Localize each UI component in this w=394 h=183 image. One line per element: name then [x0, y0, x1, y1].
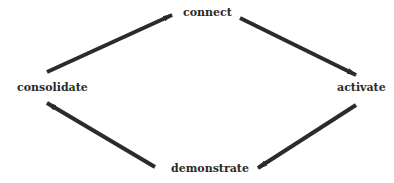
- node-activate: activate: [337, 82, 386, 94]
- arrow-connect-to-activate: [240, 18, 356, 75]
- node-demonstrate: demonstrate: [171, 163, 249, 175]
- arrow-consolidate-to-connect: [47, 15, 172, 72]
- arrow-activate-to-demonstrate: [258, 105, 356, 168]
- node-consolidate: consolidate: [17, 82, 88, 94]
- node-connect: connect: [183, 7, 232, 19]
- arrow-demonstrate-to-consolidate: [47, 103, 155, 167]
